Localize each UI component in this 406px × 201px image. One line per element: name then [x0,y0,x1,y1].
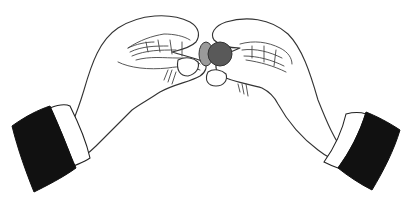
illustration-canvas [0,0,406,201]
right-hand [206,19,348,164]
right-sleeve [324,112,400,190]
coin [199,42,232,66]
hands-holding-coin-illustration [0,0,406,201]
coin-face [208,42,232,66]
